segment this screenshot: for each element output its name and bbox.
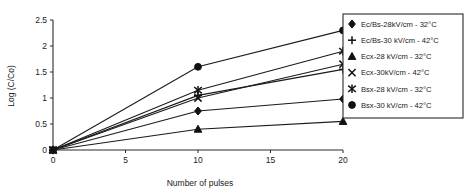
y-tick-label: 1.5	[35, 67, 47, 77]
legend-item-label: Ecx-30kV/cm - 42°C	[361, 68, 430, 77]
x-axis-title: Number of pulses	[167, 178, 234, 188]
y-tick-label: 0	[42, 145, 47, 155]
data-point-filled-circle	[349, 102, 356, 109]
legend-item-label: Ec/Bs-30 kV/cm - 42°C	[361, 36, 439, 45]
chart-legend: Ec/Bs-28kV/cm - 32°CEc/Bs-30 kV/cm - 42°…	[343, 14, 463, 118]
legend-item-label: Bsx-30 kV/cm - 42°C	[361, 101, 432, 110]
legend-item-label: Ecx-28 kV/cm - 32°C	[361, 52, 432, 61]
legend-item-label: Bsx-28 kV/cm - 32°C	[361, 85, 432, 94]
legend-item-label: Ec/Bs-28kV/cm - 32°C	[361, 20, 437, 29]
y-tick-label: 2	[42, 41, 47, 51]
data-point-filled-circle	[195, 63, 202, 70]
x-tick-label: 20	[338, 155, 348, 165]
line-chart: 00.511.522.5 05101520 Log (C/Co) Number …	[0, 0, 464, 194]
chart-container: 00.511.522.5 05101520 Log (C/Co) Number …	[0, 0, 464, 194]
x-tick-label: 0	[51, 155, 56, 165]
x-tick-label: 5	[123, 155, 128, 165]
y-axis-title: Log (C/Co)	[6, 65, 16, 107]
y-tick-label: 1	[42, 93, 47, 103]
y-tick-label: 0.5	[35, 119, 47, 129]
data-point-filled-circle	[50, 147, 57, 154]
y-tick-label: 2.5	[35, 15, 47, 25]
x-tick-label: 15	[266, 155, 276, 165]
x-tick-label: 10	[193, 155, 203, 165]
